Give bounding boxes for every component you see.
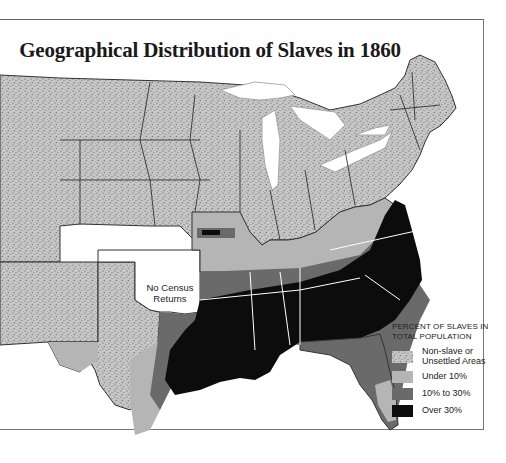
legend-item-under-10: Under 10% bbox=[392, 371, 502, 383]
legend-label: Non-slave or Unsettled Areas bbox=[422, 347, 486, 366]
legend-swatch-under-10 bbox=[392, 371, 413, 383]
legend-label: 10% to 30% bbox=[422, 389, 471, 399]
legend-item-non-slave: Non-slave or Unsettled Areas bbox=[392, 347, 502, 366]
legend-heading-line-1: PERCENT OF SLAVES IN bbox=[392, 322, 502, 332]
no-census-line-2: Returns bbox=[140, 293, 200, 304]
legend-label-line: Unsettled Areas bbox=[422, 357, 486, 367]
no-census-label: No Census Returns bbox=[140, 282, 200, 304]
no-census-line-1: No Census bbox=[140, 282, 200, 293]
legend-swatch-stipple bbox=[392, 351, 413, 363]
legend-heading-line-2: TOTAL POPULATION bbox=[392, 332, 502, 342]
patch-missouri-black bbox=[202, 230, 220, 235]
legend-swatch-over-30 bbox=[392, 405, 413, 417]
legend-label: Under 10% bbox=[422, 372, 467, 382]
legend-item-over-30: Over 30% bbox=[392, 405, 502, 417]
region-florida bbox=[300, 334, 398, 430]
legend-label: Over 30% bbox=[422, 406, 462, 416]
map-title: Geographical Distribution of Slaves in 1… bbox=[0, 38, 420, 63]
region-western-territories bbox=[0, 262, 98, 345]
legend-item-10-to-30: 10% to 30% bbox=[392, 388, 502, 400]
legend-swatch-10-to-30 bbox=[392, 388, 413, 400]
legend: PERCENT OF SLAVES IN TOTAL POPULATION No… bbox=[392, 322, 502, 417]
legend-heading: PERCENT OF SLAVES IN TOTAL POPULATION bbox=[392, 322, 502, 342]
